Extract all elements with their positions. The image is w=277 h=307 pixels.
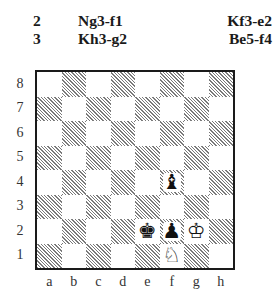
square-g8	[184, 72, 209, 97]
square-e4	[135, 170, 160, 195]
square-d1	[111, 244, 136, 269]
square-b6	[62, 121, 87, 146]
square-c2	[86, 219, 111, 244]
square-f8	[160, 72, 185, 97]
square-a4	[37, 170, 62, 195]
white-move: Ng3-f1	[78, 12, 123, 30]
rank-label: 8	[14, 77, 26, 91]
file-label: g	[184, 275, 209, 289]
square-c7	[86, 97, 111, 122]
square-e8	[135, 72, 160, 97]
move-row: 3 Kh3-g2 Be5-f4	[0, 30, 277, 48]
black-bishop-icon: ♝	[162, 172, 181, 193]
rank-label: 6	[14, 126, 26, 140]
square-h6	[209, 121, 234, 146]
black-move: Be5-f4	[229, 30, 272, 48]
square-b5	[62, 146, 87, 171]
rank-label: 2	[14, 224, 26, 238]
move-number: 2	[33, 12, 41, 30]
square-b4	[62, 170, 87, 195]
square-d2	[111, 219, 136, 244]
rank-label: 4	[14, 175, 26, 189]
black-pawn-icon: ♟	[162, 221, 181, 242]
square-a3	[37, 195, 62, 220]
square-f1: ♘	[160, 244, 185, 269]
square-a8	[37, 72, 62, 97]
square-h4	[209, 170, 234, 195]
file-label: b	[62, 275, 87, 289]
rank-label: 3	[14, 199, 26, 213]
square-g4	[184, 170, 209, 195]
square-e2: ♚	[135, 219, 160, 244]
rank-label: 1	[14, 248, 26, 262]
square-g6	[184, 121, 209, 146]
square-a6	[37, 121, 62, 146]
square-a7	[37, 97, 62, 122]
square-h3	[209, 195, 234, 220]
square-d4	[111, 170, 136, 195]
square-e5	[135, 146, 160, 171]
square-e6	[135, 121, 160, 146]
square-d6	[111, 121, 136, 146]
file-label: e	[135, 275, 160, 289]
file-label: f	[160, 275, 185, 289]
file-label: a	[37, 275, 62, 289]
square-c4	[86, 170, 111, 195]
rank-label: 7	[14, 101, 26, 115]
square-f4: ♝	[160, 170, 185, 195]
square-b2	[62, 219, 87, 244]
square-h5	[209, 146, 234, 171]
move-list: 2 Ng3-f1 Kf3-e2 3 Kh3-g2 Be5-f4	[0, 12, 277, 48]
square-f2: ♟	[160, 219, 185, 244]
square-h2	[209, 219, 234, 244]
square-a2	[37, 219, 62, 244]
square-e7	[135, 97, 160, 122]
square-c3	[86, 195, 111, 220]
square-g3	[184, 195, 209, 220]
square-c5	[86, 146, 111, 171]
black-move: Kf3-e2	[227, 12, 272, 30]
white-king-icon: ♔	[187, 221, 206, 242]
white-knight-icon: ♘	[162, 245, 181, 266]
square-g7	[184, 97, 209, 122]
square-e3	[135, 195, 160, 220]
chess-board: ♝♚♟♔♘	[35, 70, 235, 270]
square-e1	[135, 244, 160, 269]
square-a1	[37, 244, 62, 269]
move-number: 3	[33, 30, 41, 48]
move-row: 2 Ng3-f1 Kf3-e2	[0, 12, 277, 30]
square-d8	[111, 72, 136, 97]
square-b3	[62, 195, 87, 220]
square-f3	[160, 195, 185, 220]
rank-label: 5	[14, 150, 26, 164]
square-d3	[111, 195, 136, 220]
square-f7	[160, 97, 185, 122]
square-c1	[86, 244, 111, 269]
file-label: d	[111, 275, 136, 289]
white-move: Kh3-g2	[78, 30, 127, 48]
square-f6	[160, 121, 185, 146]
square-a5	[37, 146, 62, 171]
square-d7	[111, 97, 136, 122]
square-g5	[184, 146, 209, 171]
file-label: c	[86, 275, 111, 289]
square-d5	[111, 146, 136, 171]
square-h1	[209, 244, 234, 269]
square-c6	[86, 121, 111, 146]
square-b7	[62, 97, 87, 122]
square-f5	[160, 146, 185, 171]
square-b1	[62, 244, 87, 269]
square-h8	[209, 72, 234, 97]
square-g1	[184, 244, 209, 269]
square-h7	[209, 97, 234, 122]
square-c8	[86, 72, 111, 97]
black-king-icon: ♚	[138, 221, 157, 242]
square-b8	[62, 72, 87, 97]
square-g2: ♔	[184, 219, 209, 244]
file-label: h	[209, 275, 234, 289]
